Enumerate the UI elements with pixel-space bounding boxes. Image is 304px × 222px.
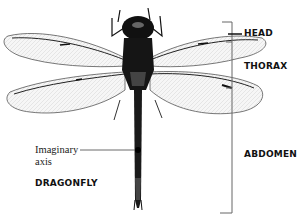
label-imaginary: Imaginary (35, 144, 78, 156)
label-head: HEAD (244, 28, 273, 38)
label-axis: axis (35, 156, 52, 168)
label-abdomen: ABDOMEN (244, 149, 297, 159)
right-hindwing (150, 72, 263, 118)
axis-point-marker (135, 147, 141, 153)
dragonfly-diagram: HEAD THORAX ABDOMEN Imaginary axis DRAGO… (0, 0, 304, 222)
left-forewing (4, 33, 125, 66)
label-thorax: THORAX (244, 61, 287, 71)
diagram-title: DRAGONFLY (35, 178, 98, 188)
left-hindwing (7, 72, 125, 120)
